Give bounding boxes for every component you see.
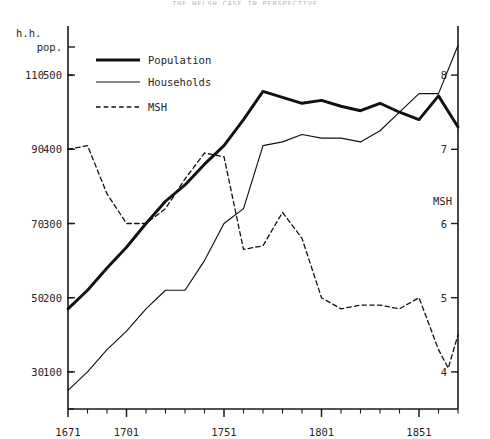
legend-label-households: Households [148, 76, 211, 88]
series-line-msh [68, 146, 458, 369]
pop-axis-tick-label: 100 [43, 366, 62, 378]
series-line-households [68, 45, 458, 390]
pop-axis-tick-label: 200 [43, 292, 62, 304]
legend-label-population: Population [148, 54, 211, 66]
x-axis-tick-label: 1701 [114, 426, 139, 438]
msh-axis-tick-label: 5 [441, 292, 447, 304]
hh-axis-tick-label: 70 [31, 218, 44, 230]
legend-label-msh: MSH [148, 101, 167, 113]
hh-axis-tick-label: 50 [31, 292, 44, 304]
left-axis-hh-header: h.h. [16, 27, 41, 39]
pop-axis-tick-label: 400 [43, 143, 62, 155]
x-axis-tick-label: 1751 [211, 426, 236, 438]
msh-axis-tick-label: 6 [441, 218, 447, 230]
left-axis-pop-header: pop. [37, 41, 62, 53]
hh-axis-tick-label: 110 [25, 69, 44, 81]
chart-figure: THE WELSH CASE IN PERSPECTIVE h.h.pop.10… [0, 0, 490, 439]
series-layer [68, 45, 458, 390]
pop-axis-tick-label: 500 [43, 69, 62, 81]
pop-axis-tick-label: 300 [43, 218, 62, 230]
legend-layer: PopulationHouseholdsMSH [96, 54, 211, 113]
x-axis-tick-label: 1801 [309, 426, 334, 438]
msh-axis-tick-label: 7 [441, 143, 447, 155]
hh-axis-tick-label: 30 [31, 366, 44, 378]
msh-axis-tick-label: 4 [441, 366, 447, 378]
msh-axis-header: MSH [433, 195, 452, 207]
x-axis-tick-label: 1671 [55, 426, 80, 438]
x-axis-tick-label: 1851 [406, 426, 431, 438]
hh-axis-tick-label: 90 [31, 143, 44, 155]
chart-svg: h.h.pop.10020030040050030507090110MSH456… [0, 0, 490, 439]
series-line-population [68, 91, 458, 308]
